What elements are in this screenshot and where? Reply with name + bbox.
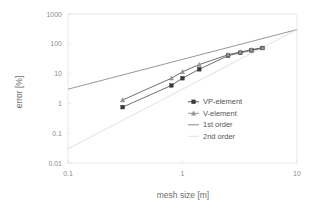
data-point-vp-element	[121, 105, 125, 109]
y-tick-label: 10	[54, 70, 62, 77]
x-tick-label: 0.1	[63, 170, 73, 177]
legend-label: 2nd order	[203, 132, 236, 141]
y-axis-title: error [%]	[14, 76, 24, 109]
legend: VP-elementV-element1st order2nd order	[182, 95, 278, 146]
x-axis-title: mesh size [m]	[157, 190, 209, 200]
x-tick-label: 10	[293, 170, 301, 177]
y-tick-label: 1000	[46, 11, 62, 18]
legend-marker-square	[192, 100, 196, 104]
data-point-vp-element	[170, 84, 174, 88]
data-point-vp-element	[181, 76, 185, 80]
data-point-vp-element	[197, 67, 201, 71]
y-tick-label: 1	[58, 100, 62, 107]
log-log-convergence-plot: 0.010.11101001000 0.1110 mesh size [m] e…	[0, 0, 309, 209]
legend-label: VP-element	[203, 97, 243, 106]
legend-label: 1st order	[203, 120, 233, 129]
legend-label: V-element	[203, 109, 238, 118]
y-tick-label: 0.01	[48, 160, 62, 167]
y-tick-label: 100	[50, 40, 62, 47]
chart-figure: 0.010.11101001000 0.1110 mesh size [m] e…	[0, 0, 309, 209]
y-tick-label: 0.1	[52, 130, 62, 137]
x-tick-label: 1	[181, 170, 185, 177]
